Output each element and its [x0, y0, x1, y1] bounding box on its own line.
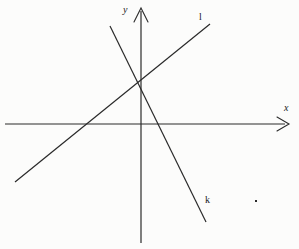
line-l	[15, 24, 210, 182]
stray-dot-mark	[255, 200, 257, 202]
line-l-label: l	[199, 12, 202, 22]
line-k-label: k	[205, 195, 210, 205]
coordinate-plane-figure: y x l k	[0, 0, 299, 249]
y-axis-label: y	[123, 5, 127, 15]
figure-canvas	[0, 0, 299, 249]
y-axis	[134, 8, 148, 243]
x-axis	[5, 117, 289, 131]
x-axis-label: x	[284, 103, 288, 113]
